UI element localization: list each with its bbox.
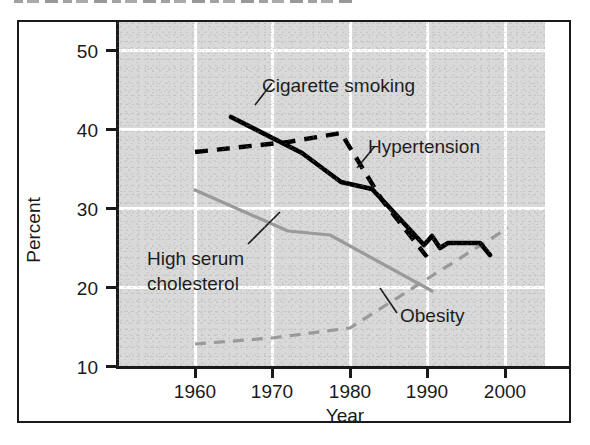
y-tick-label-10: 10	[77, 357, 98, 378]
high-serum-cholesterol-label-line2: cholesterol	[147, 273, 239, 294]
y-tick-label-20: 20	[77, 278, 98, 299]
line-chart: 50 40 30 20 10 1960 1970 1980 1990 2000 …	[0, 0, 590, 445]
x-axis-title: Year	[326, 405, 365, 426]
y-tick-label-40: 40	[77, 120, 98, 141]
x-tick-label-2000: 2000	[484, 381, 526, 402]
high-serum-cholesterol-label-line1: High serum	[147, 248, 244, 269]
y-tick-label-50: 50	[77, 41, 98, 62]
y-tick-label-30: 30	[77, 199, 98, 220]
hypertension-label: Hypertension	[368, 136, 480, 157]
chart-figure: 50 40 30 20 10 1960 1970 1980 1990 2000 …	[0, 0, 590, 445]
x-tick-label-1970: 1970	[251, 381, 293, 402]
y-axis-title: Percent	[23, 197, 44, 263]
x-tick-label-1990: 1990	[406, 381, 448, 402]
x-tick-label-1960: 1960	[174, 381, 216, 402]
cigarette-smoking-label: Cigarette smoking	[262, 75, 415, 96]
plot-panel-background	[117, 22, 545, 367]
y-axis-ticks	[106, 51, 117, 367]
x-tick-label-1980: 1980	[329, 381, 371, 402]
obesity-label: Obesity	[400, 305, 465, 326]
